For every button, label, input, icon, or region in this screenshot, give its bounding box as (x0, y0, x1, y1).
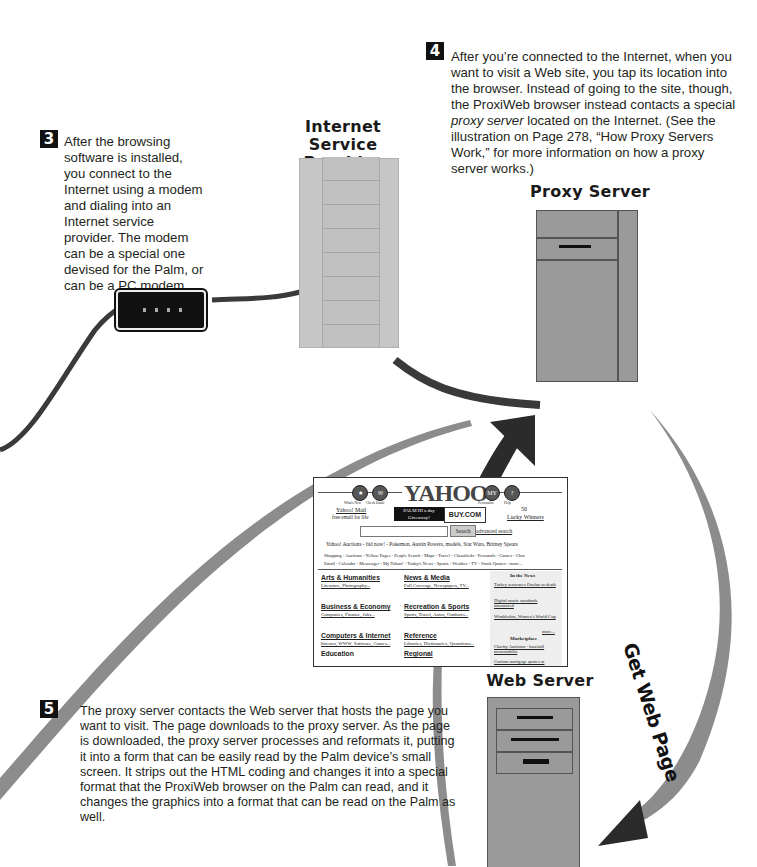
web-server-icon (487, 697, 580, 867)
step-4-number: 4 (426, 42, 444, 60)
whats-new-icon: ★ (352, 485, 368, 501)
help-icon: ? (504, 485, 520, 501)
yahoo-page-screenshot: ★ ✉ YAHOO! MY ? What's New Check Email P… (313, 477, 568, 667)
check-email-icon: ✉ (372, 485, 388, 501)
proxy-server-label: Proxy Server (530, 183, 650, 201)
step-5-number: 5 (40, 700, 58, 718)
yahoo-search-button[interactable]: Search (450, 525, 476, 537)
proxy-server-icon (536, 210, 638, 382)
isp-rack-icon (299, 158, 399, 348)
step-4-text: After you’re connected to the Internet, … (451, 49, 741, 177)
web-server-label: Web Server (480, 672, 600, 690)
palm-banner[interactable]: PALM III a day Giveaway! (394, 507, 444, 521)
isp-proxy-cable (395, 360, 540, 405)
yahoo-mail-link[interactable]: Yahoo! Mail (336, 507, 366, 513)
modem-cable-right (212, 292, 300, 300)
yahoo-search-input[interactable] (360, 526, 448, 537)
get-web-page-arrowhead (598, 800, 648, 846)
step-5-text: The proxy server contacts the Web server… (80, 704, 460, 826)
lucky-winners-link[interactable]: Lucky Winners (507, 514, 544, 520)
modem-icon (116, 290, 206, 330)
personalize-icon: MY (484, 485, 500, 501)
step-3-number: 3 (40, 130, 58, 148)
modem-cable-left (0, 308, 120, 450)
step-3-text: After the browsing software is installed… (64, 134, 204, 294)
